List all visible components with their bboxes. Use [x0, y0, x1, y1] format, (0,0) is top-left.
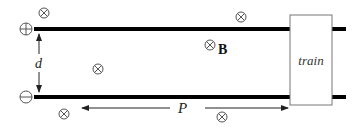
field-marker-icon — [93, 64, 103, 74]
field-marker-icon — [39, 8, 49, 18]
field-marker-icon — [236, 12, 246, 22]
distance-label: P — [177, 100, 187, 116]
positive-terminal-icon — [20, 23, 32, 35]
field-marker-icon — [205, 40, 215, 50]
field-marker-icon — [217, 112, 227, 122]
railgun-diagram: d B P train — [0, 0, 360, 132]
negative-terminal-icon — [20, 91, 32, 103]
bottom-rail — [34, 95, 290, 99]
train-label: train — [298, 53, 323, 68]
top-rail — [34, 27, 290, 31]
field-marker-icon — [59, 109, 69, 119]
field-label: B — [218, 42, 227, 57]
separation-label: d — [35, 56, 43, 71]
bottom-rail-end — [332, 95, 346, 99]
top-rail-end — [332, 27, 346, 31]
